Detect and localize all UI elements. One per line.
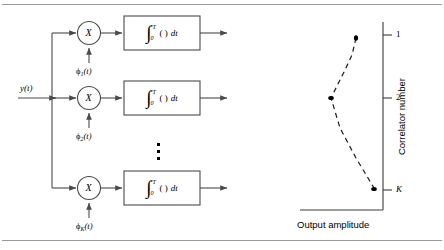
integral-upper-limit-1: T	[152, 24, 155, 30]
integral-operand-2: ( )	[159, 94, 167, 103]
integral-operand-k: ( )	[159, 184, 167, 193]
integral-limits-k: T0	[152, 180, 157, 196]
integrator-expression-1: ∫T0( )dt	[124, 16, 200, 50]
plot-tick-label-k: K	[396, 185, 402, 194]
multiplier-symbol-k: X	[86, 183, 92, 193]
ellipsis-dot-2	[157, 150, 160, 153]
integral-lower-limit-2: 0	[150, 100, 153, 106]
reference-arg-2: (t)	[83, 131, 91, 141]
ellipsis-dot-3	[157, 157, 160, 160]
plot-point-2	[328, 96, 334, 100]
integral-differential-k: dt	[171, 184, 178, 193]
integrator-expression-2: ∫T0( )dt	[124, 81, 200, 115]
plot-x-axis-label: Output amplitude	[297, 219, 369, 230]
reference-arg-1: (t)	[83, 66, 91, 76]
integral-limits-2: T0	[152, 90, 157, 106]
reference-label-2: ϕ2(t)	[76, 132, 92, 142]
figure-container: y(t) X X X ϕ1(t) ϕ2(t) ϕK(t) ∫T0( )dt ∫T…	[0, 0, 444, 250]
multiplier-symbol-1: X	[86, 28, 92, 38]
integral-operand-1: ( )	[159, 29, 167, 38]
integral-limits-1: T0	[152, 25, 157, 41]
integral-lower-limit-k: 0	[150, 190, 153, 196]
plot-tick-label-1: 1	[396, 30, 401, 39]
integrator-expression-k: ∫T0( )dt	[124, 171, 200, 205]
reference-label-1: ϕ1(t)	[76, 67, 92, 77]
diagram-vector-layer	[0, 0, 444, 250]
integral-upper-limit-k: T	[152, 179, 155, 185]
ellipsis-dot-1	[157, 143, 160, 146]
input-signal-label: y(t)	[20, 84, 33, 93]
plot-point-1	[354, 35, 358, 41]
multiplier-symbol-2: X	[86, 93, 92, 103]
reference-label-k: ϕK(t)	[76, 222, 93, 232]
integral-differential-2: dt	[171, 94, 178, 103]
integral-lower-limit-1: 0	[150, 35, 153, 41]
reference-arg-k: (t)	[85, 221, 93, 231]
plot-data-curve	[331, 38, 374, 188]
plot-y-axis-label: Correlator number	[396, 78, 407, 155]
integral-differential-1: dt	[171, 29, 178, 38]
integral-upper-limit-2: T	[152, 89, 155, 95]
plot-point-k	[371, 187, 377, 191]
